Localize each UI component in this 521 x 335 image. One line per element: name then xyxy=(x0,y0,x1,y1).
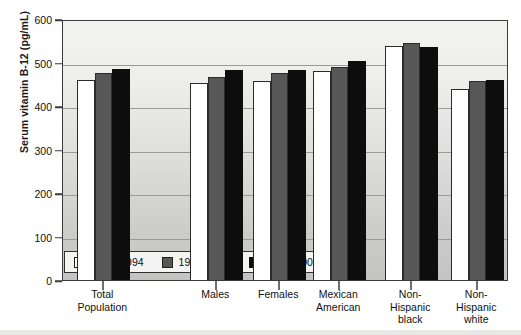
page-edge xyxy=(0,330,521,335)
x-axis-label: Males xyxy=(201,288,229,301)
bar xyxy=(385,46,403,281)
y-tick-mark xyxy=(55,237,62,239)
bar xyxy=(77,80,95,281)
bar xyxy=(288,70,306,281)
bar xyxy=(331,67,349,281)
bar xyxy=(95,73,113,281)
bar xyxy=(451,89,469,281)
x-axis-label: TotalPopulation xyxy=(77,288,127,313)
x-axis-label: Females xyxy=(258,288,298,301)
gray-square-icon xyxy=(162,257,173,268)
x-label-line: Hispanic xyxy=(456,301,496,313)
bar xyxy=(225,70,243,281)
bar xyxy=(348,61,366,281)
x-label-line: Mexican xyxy=(319,288,358,300)
x-label-line: Total xyxy=(91,288,113,300)
gridline xyxy=(63,65,507,66)
bar xyxy=(253,81,271,281)
x-label-line: Hispanic xyxy=(390,301,430,313)
x-label-line: black xyxy=(398,313,423,325)
bar xyxy=(469,81,487,281)
bar xyxy=(112,69,130,281)
y-tick-label: 400 xyxy=(22,101,52,113)
y-tick-label: 0 xyxy=(22,275,52,287)
y-tick-mark xyxy=(55,63,62,65)
y-tick-mark xyxy=(55,280,62,282)
x-label-line: white xyxy=(464,313,489,325)
bar xyxy=(486,80,504,281)
bar xyxy=(208,77,226,281)
y-tick-mark xyxy=(55,193,62,195)
bar xyxy=(313,71,331,281)
x-axis-label: Non-Hispanicblack xyxy=(390,288,430,326)
bar xyxy=(271,73,289,281)
bar xyxy=(190,83,208,281)
x-axis-label: Non-Hispanicwhite xyxy=(456,288,496,326)
chart-figure: Serum vitamin B-12 (pg/mL) 0100200300400… xyxy=(0,0,521,335)
y-tick-label: 300 xyxy=(22,145,52,157)
y-tick-label: 100 xyxy=(22,232,52,244)
plot-area xyxy=(62,20,508,281)
x-axis-label: MexicanAmerican xyxy=(316,288,360,313)
x-label-line: Females xyxy=(258,288,298,300)
y-tick-mark xyxy=(55,106,62,108)
x-label-line: Males xyxy=(201,288,229,300)
x-label-line: Non- xyxy=(399,288,422,300)
x-label-line: Non- xyxy=(465,288,488,300)
y-tick-label: 500 xyxy=(22,58,52,70)
x-label-line: Population xyxy=(77,301,127,313)
y-tick-mark xyxy=(55,150,62,152)
bar xyxy=(420,47,438,281)
y-tick-mark xyxy=(55,19,62,21)
bar xyxy=(403,43,421,281)
y-tick-label: 600 xyxy=(22,14,52,26)
x-label-line: American xyxy=(316,301,360,313)
y-tick-label: 200 xyxy=(22,188,52,200)
